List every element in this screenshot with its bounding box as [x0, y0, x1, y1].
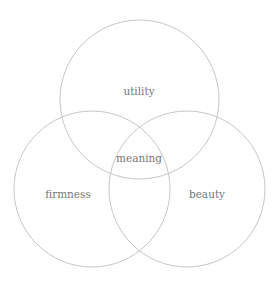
circle-beauty: [109, 111, 265, 267]
label-meaning: meaning: [116, 152, 162, 164]
venn-diagram: utility meaning firmness beauty: [0, 0, 279, 281]
label-firmness: firmness: [45, 188, 91, 200]
circle-firmness: [14, 111, 170, 267]
label-beauty: beauty: [189, 188, 225, 200]
label-utility: utility: [123, 85, 154, 97]
